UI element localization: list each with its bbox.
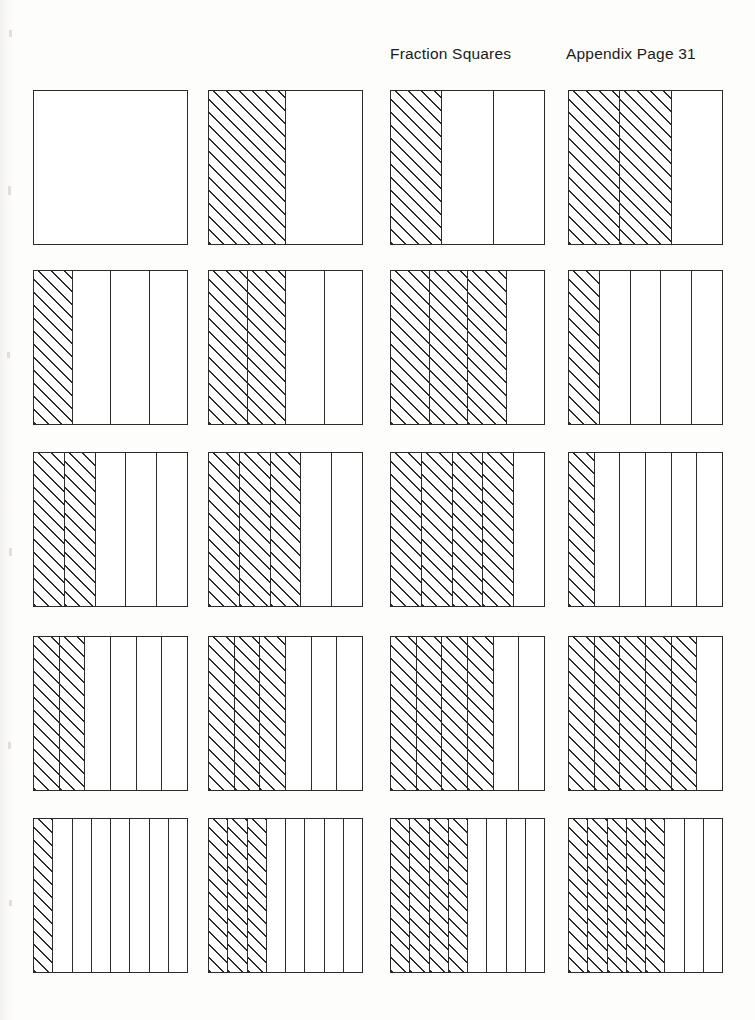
unshaded-part [169,819,187,972]
unshaded-part [286,91,362,244]
shaded-part [483,453,514,606]
unshaded-part [487,819,506,972]
shaded-part [468,271,507,424]
fraction-square-one-half [208,90,363,245]
shaded-part [60,637,86,790]
unshaded-part [34,91,187,244]
unshaded-part [162,637,187,790]
shaded-part [620,637,646,790]
unshaded-part [332,453,362,606]
shaded-part [569,819,588,972]
unshaded-part [672,91,722,244]
fraction-square-one-fifth [568,270,723,425]
shaded-part [608,819,627,972]
shaded-part [228,819,247,972]
shaded-part [209,453,240,606]
shaded-part [569,637,595,790]
unshaded-part [150,271,188,424]
unshaded-part [111,637,137,790]
shaded-part [240,453,271,606]
unshaded-part [494,637,520,790]
shaded-part [410,819,429,972]
unshaded-part [631,271,662,424]
shaded-part [391,91,442,244]
shaded-part [430,271,469,424]
fraction-square-two-fifths [33,452,188,607]
unshaded-part [697,453,722,606]
unshaded-part [286,637,312,790]
shaded-part [449,819,468,972]
shaded-part [34,637,60,790]
shaded-part [209,637,235,790]
shaded-part [430,819,449,972]
shaded-part [65,453,96,606]
fraction-square-two-sixths [33,636,188,791]
shaded-part [34,819,53,972]
unshaded-part [325,271,363,424]
shaded-part [248,271,287,424]
fraction-square-two-fourths [208,270,363,425]
shaded-part [442,637,468,790]
fraction-square-whole-square-unshaded [33,90,188,245]
fraction-square-three-sixths [208,636,363,791]
shaded-part [235,637,261,790]
unshaded-part [92,819,111,972]
shaded-part [34,453,65,606]
shaded-part [34,271,73,424]
unshaded-part [661,271,692,424]
fraction-square-one-fourth [33,270,188,425]
fraction-square-one-sixth [568,452,723,607]
fraction-square-five-sixths [568,636,723,791]
unshaded-part [514,453,544,606]
unshaded-part [595,453,621,606]
unshaded-part [312,637,338,790]
fraction-square-three-eighths [208,818,363,973]
unshaded-part [507,819,526,972]
shaded-part [569,91,620,244]
shaded-part [391,819,410,972]
unshaded-part [96,453,127,606]
fraction-square-five-eighths [568,818,723,973]
unshaded-part [697,637,722,790]
unshaded-part [111,819,130,972]
shaded-part [672,637,698,790]
unshaded-part [620,453,646,606]
unshaded-part [267,819,286,972]
shaded-part [271,453,302,606]
unshaded-part [494,91,544,244]
shaded-part [646,819,665,972]
fraction-square-one-eighth [33,818,188,973]
shaded-part [595,637,621,790]
unshaded-part [665,819,684,972]
unshaded-part [507,271,545,424]
shaded-part [391,637,417,790]
unshaded-part [157,453,187,606]
unshaded-part [111,271,150,424]
shaded-part [422,453,453,606]
fraction-square-three-fourths [390,270,545,425]
unshaded-part [646,453,672,606]
fraction-square-four-eighths [390,818,545,973]
unshaded-part [468,819,487,972]
shaded-part [260,637,286,790]
unshaded-part [344,819,362,972]
unshaded-part [286,271,325,424]
fraction-squares-grid [0,0,755,1020]
unshaded-part [672,453,698,606]
shaded-part [391,453,422,606]
fraction-square-three-fifths [208,452,363,607]
unshaded-part [286,819,305,972]
unshaded-part [73,271,112,424]
unshaded-part [150,819,169,972]
shaded-part [417,637,443,790]
shaded-part [627,819,646,972]
unshaded-part [600,271,631,424]
fraction-square-one-third [390,90,545,245]
unshaded-part [337,637,362,790]
unshaded-part [442,91,493,244]
shaded-part [620,91,671,244]
shaded-part [209,91,286,244]
shaded-part [209,819,228,972]
unshaded-part [137,637,163,790]
shaded-part [391,271,430,424]
